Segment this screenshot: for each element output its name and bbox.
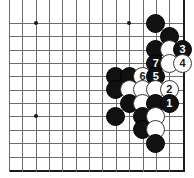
grid-line-vertical [9, 0, 10, 172]
grid-line-vertical [36, 0, 37, 172]
grid-line-vertical [89, 0, 90, 172]
grid-line-vertical [76, 0, 77, 172]
stone-black [146, 134, 165, 153]
star-point-bottom-left [34, 114, 38, 118]
board-edge-right [183, 0, 185, 172]
grid-line-vertical [62, 0, 63, 172]
move-number-label: 4 [179, 58, 185, 69]
move-stone-white-4: 4 [173, 54, 192, 73]
star-point-top-left [34, 21, 38, 25]
stone-black [106, 107, 125, 126]
move-number-label: 1 [166, 98, 172, 109]
grid-line-vertical [102, 0, 103, 172]
star-point-top-right [127, 21, 131, 25]
grid-line-vertical [49, 0, 50, 172]
grid-line-vertical [22, 0, 23, 172]
go-board-diagram: 3746521 [0, 0, 194, 178]
